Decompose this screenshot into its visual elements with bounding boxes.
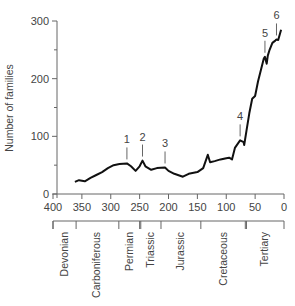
annotation-label: 1 bbox=[124, 133, 130, 145]
annotation-label: 3 bbox=[162, 137, 168, 149]
period-label: Cretaceous bbox=[217, 232, 229, 286]
y-tick-label: 300 bbox=[31, 15, 49, 27]
annotation-label: 2 bbox=[139, 131, 145, 143]
y-tick-label: 200 bbox=[31, 73, 49, 85]
period-label: Devonian bbox=[58, 232, 70, 277]
families-line bbox=[75, 30, 281, 182]
x-tick-label: 0 bbox=[281, 201, 287, 213]
period-label: Carboniferous bbox=[90, 232, 102, 298]
y-axis-label: Number of families bbox=[3, 64, 15, 152]
period-label: Jurassic bbox=[174, 232, 186, 271]
plot-area bbox=[75, 30, 281, 182]
y-tick-label: 0 bbox=[43, 188, 49, 200]
x-tick-label: 50 bbox=[249, 201, 261, 213]
y-axis: 0100200300 bbox=[31, 15, 57, 200]
period-label: Tertiary bbox=[258, 231, 270, 266]
period-label: Permian bbox=[123, 232, 135, 271]
x-tick-label: 250 bbox=[130, 201, 148, 213]
period-axis: DevonianCarboniferousPermianTriassicJura… bbox=[53, 221, 284, 298]
x-axis: 400350300250200150100500 bbox=[44, 194, 287, 213]
period-label: Triassic bbox=[144, 232, 156, 268]
x-tick-label: 400 bbox=[44, 201, 62, 213]
annotation-label: 6 bbox=[273, 9, 279, 21]
annotation-label: 4 bbox=[237, 110, 243, 122]
x-tick-label: 300 bbox=[102, 201, 120, 213]
annotation-label: 5 bbox=[262, 27, 268, 39]
x-tick-label: 200 bbox=[159, 201, 177, 213]
y-tick-label: 100 bbox=[31, 130, 49, 142]
x-tick-label: 150 bbox=[188, 201, 206, 213]
x-tick-label: 100 bbox=[217, 201, 235, 213]
chart: 0100200300 400350300250200150100500 Devo… bbox=[0, 0, 295, 306]
x-tick-label: 350 bbox=[73, 201, 91, 213]
